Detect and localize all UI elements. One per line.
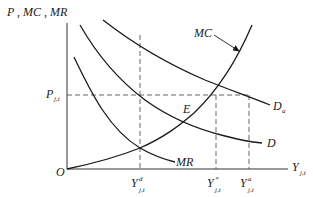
tick-yd: Y d j,t	[131, 175, 146, 194]
x-axis-label: Y j,t	[292, 160, 307, 177]
svg-text:D: D	[272, 99, 282, 113]
d-label: D	[266, 136, 276, 150]
svg-text:j,t: j,t	[53, 95, 61, 103]
svg-text:d: d	[139, 175, 143, 183]
mc-label: MC	[193, 26, 213, 40]
svg-text:Y: Y	[207, 176, 215, 190]
equilibrium-label: E	[182, 102, 191, 116]
mc-arrow	[214, 35, 239, 51]
svg-text:a: a	[282, 107, 286, 115]
demand-a-curve	[103, 20, 270, 105]
mr-label: MR	[175, 155, 194, 169]
svg-text:j,t: j,t	[299, 169, 307, 177]
demand-curve	[80, 25, 262, 143]
svg-text:P: P	[45, 87, 54, 101]
svg-text:j,t: j,t	[214, 186, 222, 194]
svg-text:Y: Y	[240, 176, 248, 190]
da-label: D a	[272, 99, 286, 115]
y-axis-label: P , MC , MR	[6, 5, 68, 19]
svg-text:*: *	[215, 175, 219, 183]
origin-label: O	[56, 165, 65, 179]
tick-ystar: Y * j,t	[207, 175, 222, 194]
svg-text:Y: Y	[292, 160, 300, 174]
svg-text:j,t: j,t	[247, 186, 255, 194]
svg-text:a: a	[248, 175, 252, 183]
economics-diagram: P , MC , MR O Y j,t P j,t MC MR D D a E …	[0, 0, 313, 197]
tick-ya: Y a j,t	[240, 175, 255, 194]
svg-text:Y: Y	[131, 176, 139, 190]
price-label: P j,t	[45, 87, 61, 103]
svg-text:j,t: j,t	[138, 186, 146, 194]
